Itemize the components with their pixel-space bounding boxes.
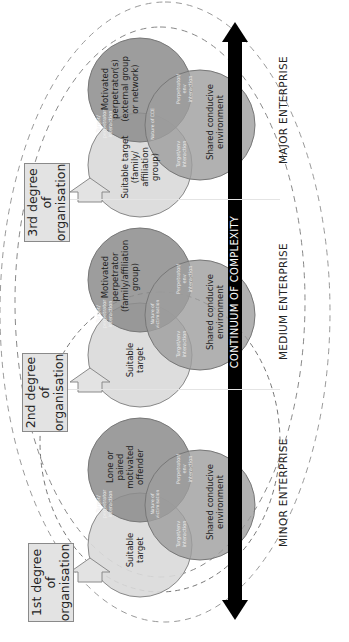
label-target-perpetrator: Target/ perpetrator interaction (95, 296, 113, 332)
label-target-perpetrator: Target/ perpetrator interaction (95, 106, 113, 142)
label-target-perpetrator: Target/ perpetrator interaction (95, 486, 113, 522)
label-target-env: Target/env interaction (175, 326, 187, 362)
label-target: Suitable target (125, 520, 145, 580)
enterprise-label-minor: MINOR ENTERPRISE (277, 438, 289, 547)
label-perpetrator-env: Perpetrator/ env interaction (175, 261, 193, 297)
label-centre: Nature of victimisation (150, 486, 160, 522)
label-target-env: Target/env interaction (175, 516, 187, 552)
label-target: Suitable target (125, 330, 145, 390)
label-perpetrator-env: Perpetrator/ env interaction (175, 71, 193, 107)
label-target-env: Target/env interaction (175, 136, 187, 172)
label-perpetrator-env: Perpetrator/ env interaction (175, 451, 193, 487)
enterprise-label-medium: MEDIUM ENTERPRISE (277, 243, 289, 360)
label-environment: Shared conducive environment (205, 462, 225, 542)
degree-box-3: 3rd degree of organisation (24, 163, 70, 242)
label-environment: Shared conducive environment (205, 272, 225, 352)
label-environment: Shared conducive environment (205, 82, 225, 162)
label-target: Suitable target (family/ affiliation gro… (120, 134, 160, 200)
degree-box-1: 1st degree of organisation (28, 543, 74, 622)
label-centre: Nature of victimisation (150, 296, 160, 332)
arrow-left-head-icon (222, 600, 248, 620)
diagram-canvas: 1st degree of organisation 2nd degree of… (0, 0, 349, 642)
degree-box-2: 2nd degree of organisation (22, 353, 68, 432)
label-centre: Nature of CCE (150, 106, 155, 142)
axis-label: CONTINUUM OF COMPLEXITY (229, 202, 241, 382)
arrow-right-head-icon (222, 22, 248, 42)
enterprise-label-major: MAJOR ENTERPRISE (277, 56, 289, 164)
